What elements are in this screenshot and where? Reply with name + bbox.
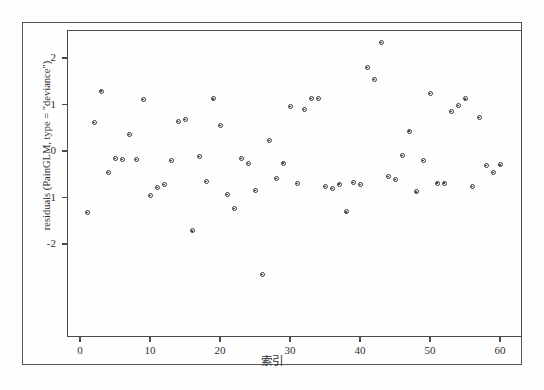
y-axis-title: residuals (PainGLM, type = "deviance")	[41, 36, 52, 256]
figure-canvas: 210-1-20102030405060 residuals (PainGLM,…	[0, 0, 544, 390]
x-axis-title: 索引	[0, 352, 544, 368]
plot-axes-box	[67, 30, 522, 337]
